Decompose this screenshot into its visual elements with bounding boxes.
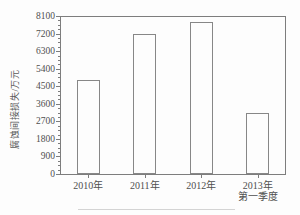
y-minor-tick [58, 161, 60, 162]
y-minor-tick [58, 25, 60, 26]
y-minor-tick [58, 148, 60, 149]
y-minor-tick [58, 82, 60, 83]
y-major-tick [56, 51, 60, 52]
y-minor-tick [58, 56, 60, 57]
y-major-tick [56, 174, 60, 175]
page-underline [78, 209, 235, 210]
y-major-tick [56, 16, 60, 17]
y-minor-tick [58, 113, 60, 114]
x-category-label: 2010年 [58, 180, 118, 191]
y-tick-label: 2700 [0, 116, 55, 126]
x-tick [145, 175, 146, 178]
y-major-tick [56, 121, 60, 122]
bar [190, 22, 213, 174]
x-tick [258, 175, 259, 178]
y-minor-tick [58, 91, 60, 92]
y-tick-label: 6300 [0, 46, 55, 56]
y-minor-tick [58, 152, 60, 153]
y-tick-label: 8100 [0, 11, 55, 21]
y-major-tick [56, 86, 60, 87]
y-minor-tick [58, 42, 60, 43]
bar [246, 113, 269, 174]
y-minor-tick [58, 99, 60, 100]
bar [77, 80, 100, 174]
bar-chart-figure: 腐蚀间接损失/万元 090018002700360045005400630072… [0, 0, 300, 215]
x-category-label: 2012年 [171, 180, 231, 191]
y-minor-tick [58, 126, 60, 127]
y-tick-label: 0 [0, 169, 55, 179]
y-major-tick [56, 139, 60, 140]
y-minor-tick [58, 73, 60, 74]
y-minor-tick [58, 165, 60, 166]
y-minor-tick [58, 47, 60, 48]
y-minor-tick [58, 64, 60, 65]
y-tick-label: 900 [0, 151, 55, 161]
y-minor-tick [58, 77, 60, 78]
y-minor-tick [58, 170, 60, 171]
y-minor-tick [58, 130, 60, 131]
y-tick-label: 1800 [0, 134, 55, 144]
y-major-tick [56, 34, 60, 35]
y-tick-label: 4500 [0, 81, 55, 91]
y-tick-label: 3600 [0, 99, 55, 109]
y-minor-tick [58, 60, 60, 61]
y-minor-tick [58, 135, 60, 136]
x-category-label: 2011年 [115, 180, 175, 191]
y-major-tick [56, 156, 60, 157]
y-tick-label: 7200 [0, 29, 55, 39]
y-minor-tick [58, 29, 60, 30]
y-minor-tick [58, 95, 60, 96]
y-tick-label: 5400 [0, 64, 55, 74]
y-minor-tick [58, 38, 60, 39]
y-minor-tick [58, 20, 60, 21]
y-minor-tick [58, 143, 60, 144]
y-minor-tick [58, 108, 60, 109]
x-tick [88, 175, 89, 178]
bar [133, 34, 156, 174]
y-major-tick [56, 69, 60, 70]
y-minor-tick [58, 117, 60, 118]
y-major-tick [56, 104, 60, 105]
x-tick [201, 175, 202, 178]
x-category-label: 2013年 第一季度 [228, 180, 288, 202]
